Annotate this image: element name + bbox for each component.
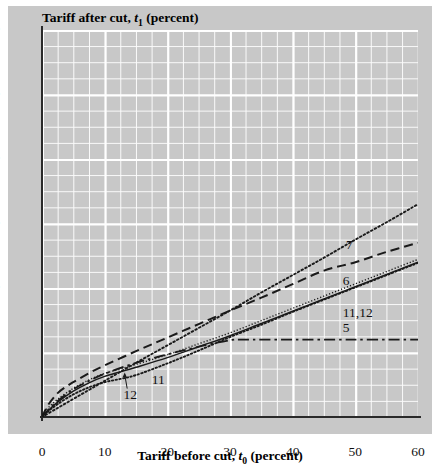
x-axis-title-main: Tariff before cut,	[137, 448, 235, 463]
curve-label-11-12: 11,12	[343, 305, 373, 321]
curve-label-5: 5	[343, 320, 350, 336]
curve-label-12: 12	[123, 387, 137, 403]
y-axis-title-subscript: 1	[138, 17, 143, 28]
plot-area: 010203040506001020304050607611,1251112	[42, 30, 418, 417]
curve-label-6: 6	[343, 273, 350, 289]
annotation-arrow-12	[123, 373, 127, 378]
curves-layer	[42, 30, 418, 417]
x-axis-title: Tariff before cut, t0 (percent)	[8, 448, 432, 466]
x-axis-title-unit: (percent)	[251, 448, 303, 463]
y-axis-title: Tariff after cut, t1 (percent)	[42, 10, 198, 28]
x-axis-title-subscript: 0	[242, 455, 247, 466]
curve-6	[42, 243, 418, 417]
curve-label-11: 11	[152, 372, 165, 388]
y-axis-title-unit: (percent)	[146, 10, 198, 25]
figure-panel: Tariff after cut, t1 (percent) 010203040…	[8, 6, 432, 434]
curve-label-7: 7	[346, 237, 353, 253]
y-axis-title-main: Tariff after cut,	[42, 10, 131, 25]
